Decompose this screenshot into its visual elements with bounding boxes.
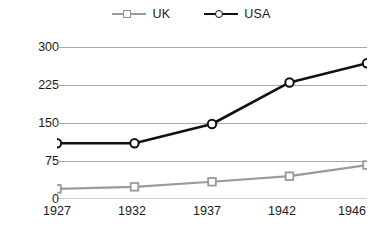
data-point-usa-1937[interactable] [208,120,216,128]
x-tick-label-1937: 1937 [177,205,237,218]
series-layer [57,59,367,193]
data-point-usa-1927[interactable] [57,139,61,147]
x-tick-label-1946: 1946 [322,205,382,218]
y-tick-label-225: 225 [19,79,59,92]
legend-label-usa: USA [244,8,270,21]
x-tick-label-1927: 1927 [27,205,87,218]
x-tick-label-1942: 1942 [252,205,312,218]
legend-item-uk[interactable]: UK [112,8,170,21]
legend-item-usa[interactable]: USA [204,8,270,21]
line-chart: UK USA 300 225 150 75 0 1927 1932 1937 1… [0,0,383,233]
y-tick-label-300: 300 [19,41,59,54]
data-point-uk-1937[interactable] [208,178,216,186]
data-point-usa-1946[interactable] [363,59,367,67]
y-tick-label-150: 150 [19,117,59,130]
y-tick-label-75: 75 [19,155,59,168]
x-tick-label-1932: 1932 [102,205,162,218]
data-point-uk-1932[interactable] [131,183,139,191]
series-line-usa [57,63,367,143]
plot-area [57,47,367,199]
square-marker-icon [112,8,146,20]
legend-label-uk: UK [152,8,170,21]
data-point-usa-1942[interactable] [285,78,293,86]
data-point-uk-1942[interactable] [286,172,294,180]
chart-legend: UK USA [0,8,383,21]
data-point-uk-1927[interactable] [57,185,61,193]
circle-marker-icon [204,8,238,20]
data-point-usa-1932[interactable] [130,139,138,147]
data-point-uk-1946[interactable] [363,161,367,169]
